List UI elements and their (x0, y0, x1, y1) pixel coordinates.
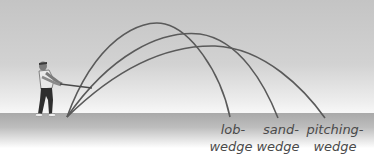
pitching-wedge-arc (67, 46, 325, 118)
sand-wedge-arc (67, 34, 278, 118)
pitching-wedge-label-line1: pitching- (300, 121, 370, 138)
lob-wedge-arc (67, 23, 230, 117)
pitching-wedge-label: pitching- wedge (300, 121, 370, 155)
sand-wedge-label-line2: wedge (250, 138, 306, 155)
golfer-icon (35, 62, 92, 117)
sand-wedge-label-line1: sand- (250, 121, 306, 138)
golf-wedge-trajectory-diagram: lob- wedge sand- wedge pitching- wedge (0, 0, 374, 160)
sand-wedge-label: sand- wedge (250, 121, 306, 155)
pitching-wedge-label-line2: wedge (300, 138, 370, 155)
